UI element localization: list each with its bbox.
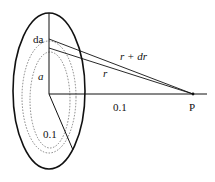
point-p-marker xyxy=(192,93,195,96)
diagram-canvas: da a r r + dr 0.1 0.1 P xyxy=(0,0,215,182)
label-point-p: P xyxy=(189,101,195,113)
line-r-plus-dr xyxy=(49,39,193,94)
label-da: da xyxy=(33,33,44,45)
slanted-radius xyxy=(49,94,73,150)
label-r: r xyxy=(103,67,108,79)
label-a: a xyxy=(38,70,44,82)
label-r-plus-dr: r + dr xyxy=(120,50,148,62)
label-inner-0-1: 0.1 xyxy=(43,128,57,140)
disc-diagram: da a r r + dr 0.1 0.1 P xyxy=(0,0,215,182)
label-axis-0-1: 0.1 xyxy=(113,101,127,113)
